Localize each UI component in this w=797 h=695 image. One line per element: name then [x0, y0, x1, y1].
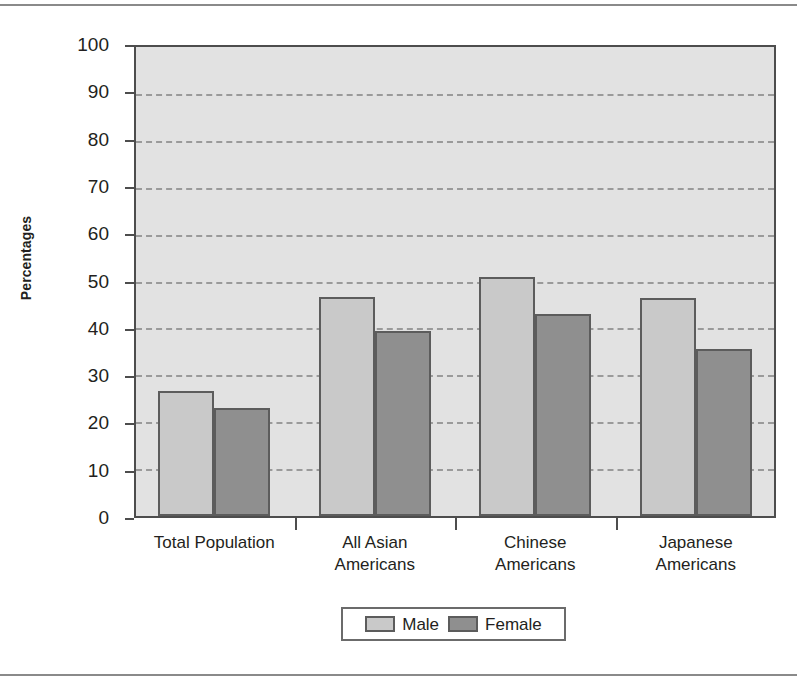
plot-inner [136, 47, 774, 516]
x-group-label-line: Japanese [601, 532, 791, 554]
legend-label-female: Female [485, 616, 542, 633]
legend-swatch-male-icon [365, 616, 395, 632]
y-tick-label-60: 60 [49, 224, 109, 243]
bar-female-all-asian-americans [375, 331, 431, 516]
x-tick-mark-2 [455, 518, 457, 530]
y-tick-label-30: 30 [49, 366, 109, 385]
legend-entry-male[interactable]: Male [365, 616, 439, 633]
y-tick-label-80: 80 [49, 130, 109, 149]
x-group-label-japanese-americans: JapaneseAmericans [601, 532, 791, 576]
x-tick-mark-1 [295, 518, 297, 530]
plot-area [134, 45, 776, 518]
legend-swatch-female-icon [448, 616, 478, 632]
gridline-50 [136, 282, 774, 284]
gridline-60 [136, 235, 774, 237]
page-rule-top [0, 4, 797, 6]
y-tick-mark-0 [125, 518, 134, 520]
y-tick-label-40: 40 [49, 319, 109, 338]
y-tick-label-0: 0 [49, 508, 109, 527]
bar-male-total-population [158, 391, 214, 516]
y-tick-mark-30 [125, 376, 134, 378]
y-tick-label-20: 20 [49, 413, 109, 432]
y-tick-mark-70 [125, 187, 134, 189]
gridline-70 [136, 188, 774, 190]
y-tick-mark-90 [125, 92, 134, 94]
x-tick-mark-3 [616, 518, 618, 530]
bar-chart-figure: Percentages 1009080706050403020100 Total… [0, 0, 797, 695]
bar-female-total-population [214, 408, 270, 516]
y-tick-mark-80 [125, 140, 134, 142]
bar-female-japanese-americans [696, 349, 752, 516]
bar-male-japanese-americans [640, 298, 696, 516]
bar-female-chinese-americans [535, 314, 591, 516]
legend-label-male: Male [402, 616, 439, 633]
bar-male-chinese-americans [479, 277, 535, 516]
gridline-90 [136, 94, 774, 96]
y-tick-label-90: 90 [49, 82, 109, 101]
y-tick-label-70: 70 [49, 177, 109, 196]
y-tick-mark-10 [125, 471, 134, 473]
y-tick-mark-100 [125, 45, 134, 47]
y-tick-mark-20 [125, 423, 134, 425]
legend-entry-female[interactable]: Female [448, 616, 542, 633]
y-tick-label-50: 50 [49, 272, 109, 291]
chart-legend: MaleFemale [341, 607, 566, 641]
x-group-label-line: Americans [601, 554, 791, 576]
y-axis-title: Percentages [18, 188, 34, 328]
y-tick-mark-40 [125, 329, 134, 331]
gridline-80 [136, 141, 774, 143]
y-tick-mark-60 [125, 234, 134, 236]
y-tick-mark-50 [125, 282, 134, 284]
page-rule-bottom [0, 674, 797, 676]
y-tick-label-10: 10 [49, 461, 109, 480]
bar-male-all-asian-americans [319, 297, 375, 516]
y-tick-label-100: 100 [49, 35, 109, 54]
